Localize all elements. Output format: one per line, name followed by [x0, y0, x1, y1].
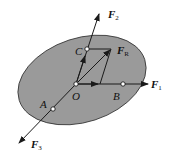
- plate: [6, 20, 157, 141]
- label-fr: FR: [117, 45, 129, 58]
- label-a: A: [40, 99, 47, 110]
- label-c: C: [75, 46, 82, 57]
- label-f1: F1: [151, 79, 162, 92]
- label-f2: F2: [108, 9, 119, 22]
- label-o: O: [72, 91, 80, 102]
- diagram-canvas: [0, 0, 169, 157]
- force-diagram: F2 C FR O B F1 A F3: [0, 0, 169, 157]
- point-a: [51, 107, 55, 111]
- point-b: [121, 82, 125, 86]
- label-f3: F3: [31, 139, 42, 152]
- point-o: [74, 82, 78, 86]
- label-b: B: [113, 91, 120, 102]
- point-c: [85, 47, 89, 51]
